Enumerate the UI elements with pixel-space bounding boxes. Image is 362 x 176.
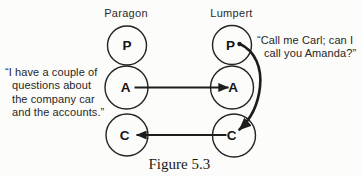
paragon-quote-line-2: questions about [12, 79, 91, 91]
paragon-parent-label: P [122, 38, 131, 53]
figure-caption: Figure 5.3 [149, 156, 211, 172]
curved-arrow-origin-dot [237, 42, 241, 46]
lumpert-parent-label: P [226, 38, 235, 53]
paragon-adult-label: A [121, 80, 131, 95]
paragon-quote-line-1: “I have a couple of [5, 66, 98, 78]
paragon-quote: “I have a couple of questions about the … [5, 66, 105, 118]
lumpert-child-label: C [227, 128, 237, 143]
lumpert-quote-line-2: call you Amanda?” [264, 47, 356, 59]
paragon-quote-line-3: the company car [12, 93, 95, 105]
lumpert-quote-line-1: “Call me Carl; can I [257, 34, 353, 46]
lumpert-quote: “Call me Carl; can I call you Amanda?” [257, 34, 356, 59]
paragon-quote-line-4: and the accounts.” [12, 106, 105, 118]
lumpert-adult-label: A [228, 80, 238, 95]
paragon-child-label: C [120, 128, 130, 143]
column-label-paragon: Paragon [104, 7, 148, 19]
column-label-lumpert: Lumpert [210, 7, 252, 19]
figure-5-3: Paragon Lumpert P A C P A C “I have a co… [0, 0, 362, 176]
ego-state-diagram: Paragon Lumpert P A C P A C “I have a co… [0, 0, 362, 176]
